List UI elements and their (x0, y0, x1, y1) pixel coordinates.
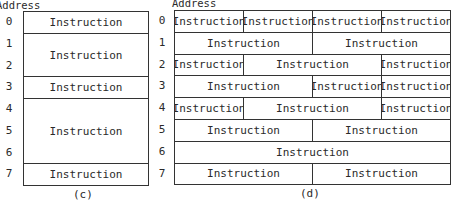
instruction-block: Instruction (243, 97, 382, 120)
instruction-block: Instruction (243, 10, 313, 33)
caption-d: (d) (300, 187, 320, 200)
instruction-block: Instruction (174, 119, 313, 142)
instruction-block: Instruction (174, 32, 313, 55)
address-label: Address (0, 0, 40, 11)
address-number: 5 (155, 123, 169, 136)
instruction-block: Instruction (312, 32, 451, 55)
caption-c: (c) (73, 188, 93, 201)
address-number: 6 (155, 145, 169, 158)
address-number: 3 (155, 79, 169, 92)
address-number: 2 (2, 59, 16, 72)
instruction-block: Instruction (381, 54, 451, 77)
instruction-block: Instruction (312, 10, 382, 33)
instruction-block: Instruction (174, 97, 244, 120)
address-number: 1 (155, 36, 169, 49)
address-number: 6 (2, 146, 16, 159)
instruction-block: Instruction (23, 98, 149, 164)
instruction-block: Instruction (174, 54, 244, 77)
instruction-block: Instruction (381, 10, 451, 33)
instruction-block: Instruction (381, 75, 451, 98)
instruction-block: Instruction (174, 163, 313, 186)
instruction-block: Instruction (243, 54, 382, 77)
instruction-block: Instruction (174, 10, 244, 33)
address-label: Address (172, 0, 216, 9)
instruction-block: Instruction (312, 75, 382, 98)
instruction-block: Instruction (174, 141, 451, 164)
instruction-block: Instruction (381, 97, 451, 120)
instruction-block: Instruction (23, 33, 149, 78)
instruction-block: Instruction (312, 163, 451, 186)
address-number: 5 (2, 124, 16, 137)
address-number: 0 (155, 14, 169, 27)
address-number: 4 (155, 101, 169, 114)
instruction-block: Instruction (23, 163, 149, 186)
address-number: 1 (2, 37, 16, 50)
address-number: 7 (155, 167, 169, 180)
address-number: 7 (2, 167, 16, 180)
instruction-block: Instruction (23, 76, 149, 99)
address-number: 2 (155, 58, 169, 71)
instruction-block: Instruction (174, 75, 313, 98)
instruction-block: Instruction (312, 119, 451, 142)
instruction-block: Instruction (23, 11, 149, 34)
address-number: 0 (2, 15, 16, 28)
address-number: 3 (2, 80, 16, 93)
address-number: 4 (2, 102, 16, 115)
